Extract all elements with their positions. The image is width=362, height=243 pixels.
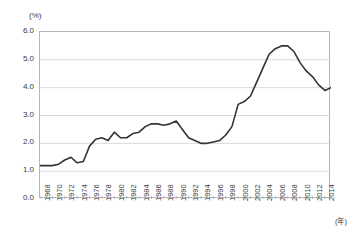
y-axis-unit-label: (%)	[29, 11, 41, 20]
plot-area	[39, 31, 330, 198]
y-axis-tick-label: 1.0	[10, 165, 34, 174]
y-axis-tick-label: 6.0	[10, 26, 34, 35]
chart-line-svg	[40, 32, 331, 199]
y-axis-tick-label: 2.0	[10, 137, 34, 146]
y-axis-tick-label: 4.0	[10, 82, 34, 91]
data-series-line	[40, 46, 331, 166]
x-axis-unit-label: (年)	[335, 215, 347, 226]
y-axis-tick-label: 0.0	[10, 193, 34, 202]
chart-container: (%) 6.05.04.03.02.01.00.0 19681970197219…	[0, 0, 362, 243]
y-axis-tick-label: 3.0	[10, 110, 34, 119]
y-axis-tick-label: 5.0	[10, 54, 34, 63]
x-axis-tick-marks	[40, 196, 331, 199]
gridlines	[40, 60, 331, 171]
